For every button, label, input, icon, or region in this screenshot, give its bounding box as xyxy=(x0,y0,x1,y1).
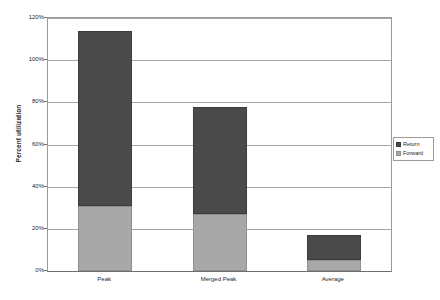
y-axis-tick-label: 60% xyxy=(2,141,44,147)
bar-segment-forward[interactable] xyxy=(78,206,132,271)
x-axis-tick-label: Average xyxy=(278,276,388,282)
bar-segment-return[interactable] xyxy=(193,107,247,215)
legend-item[interactable]: Forward xyxy=(396,149,431,158)
bar-segment-return[interactable] xyxy=(78,31,132,206)
bar-group[interactable] xyxy=(78,18,132,271)
y-axis-tick-label: 100% xyxy=(2,56,44,62)
y-axis-tick-label: 40% xyxy=(2,183,44,189)
bar-group[interactable] xyxy=(193,18,247,271)
x-axis-tick-label: Peak xyxy=(49,276,159,282)
x-axis-tick-label: Merged Peak xyxy=(164,276,274,282)
chart-legend: ReturnForward xyxy=(393,137,434,161)
bar-segment-forward[interactable] xyxy=(193,214,247,271)
y-axis-tick-label: 20% xyxy=(2,225,44,231)
y-axis-tick-label: 80% xyxy=(2,98,44,104)
bar-group[interactable] xyxy=(307,18,361,271)
stacked-bar-chart: Percent utilization 0%20%40%60%80%100%12… xyxy=(0,0,440,300)
y-axis-tick-label: 0% xyxy=(2,267,44,273)
legend-item[interactable]: Return xyxy=(396,140,431,149)
bar-segment-return[interactable] xyxy=(307,235,361,260)
y-axis-tick-labels: 0%20%40%60%80%100%120% xyxy=(0,17,44,270)
bar-segment-forward[interactable] xyxy=(307,260,361,271)
legend-swatch-forward-icon xyxy=(396,151,401,156)
y-axis-tick-label: 120% xyxy=(2,14,44,20)
plot-area xyxy=(47,17,392,272)
legend-label: Forward xyxy=(403,151,423,157)
legend-swatch-return-icon xyxy=(396,142,401,147)
legend-label: Return xyxy=(403,142,420,148)
